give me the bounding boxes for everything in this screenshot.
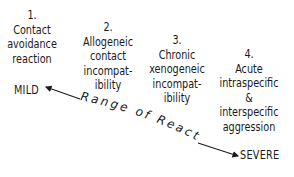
arrow-to-mild-icon	[46, 87, 80, 99]
range-arrow: Range of Reactions	[0, 0, 294, 177]
arrow-to-severe-icon	[198, 143, 238, 156]
reaction-range-diagram: 1. Contact avoidance reaction 2. Allogen…	[0, 0, 294, 177]
range-of-reactions-label: Range of Reactions	[0, 0, 203, 144]
